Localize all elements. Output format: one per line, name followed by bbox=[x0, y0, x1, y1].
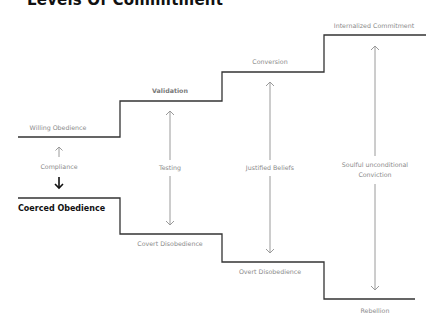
level-willing-obedience: Willing Obedience bbox=[30, 124, 87, 132]
testing-up-arrow-icon bbox=[166, 111, 174, 160]
conviction-up-arrow-icon bbox=[371, 46, 379, 156]
level-conversion: Conversion bbox=[252, 58, 287, 66]
lower-staircase-line bbox=[18, 198, 415, 299]
justified-beliefs-down-arrow-icon bbox=[266, 176, 274, 253]
conviction-down-arrow-icon bbox=[371, 184, 379, 290]
testing-down-arrow-icon bbox=[166, 176, 174, 225]
span-soulful-conviction: Soulful unconditional Conviction bbox=[330, 160, 420, 180]
compliance-up-arrow-icon bbox=[56, 147, 63, 157]
justified-beliefs-up-arrow-icon bbox=[266, 82, 274, 160]
compliance-down-arrow-icon bbox=[55, 177, 63, 188]
level-rebellion: Rebellion bbox=[361, 307, 390, 315]
level-internalized-commitment: Internalized Commitment bbox=[334, 22, 414, 30]
upper-staircase-line bbox=[18, 35, 426, 137]
level-covert-disobedience: Covert Disobedience bbox=[137, 240, 202, 248]
span-compliance: Compliance bbox=[40, 163, 77, 171]
span-testing: Testing bbox=[159, 164, 181, 172]
level-coerced-obedience: Coerced Obedience bbox=[18, 205, 105, 213]
span-justified-beliefs: Justified Beliefs bbox=[246, 164, 294, 172]
level-overt-disobedience: Overt Disobedience bbox=[239, 268, 301, 276]
level-validation: Validation bbox=[152, 87, 188, 95]
